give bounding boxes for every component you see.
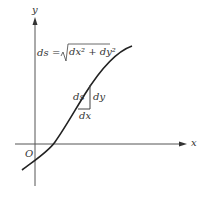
y-axis-arrow-icon [33,17,38,25]
x-axis-label: x [191,138,197,148]
triangle-dy-label: dy [93,92,105,102]
triangle-dx-label: dx [79,111,91,121]
formula-lhs: ds [37,48,49,58]
triangle-ds-label: ds [73,92,85,102]
origin-label: O [25,149,33,159]
arc-length-diagram: y x O ds = dx² + dy² ds dy dx [0,0,206,199]
curve [22,46,132,170]
formula-radicand: dx² + dy² [69,47,116,57]
x-axis-arrow-icon [179,142,187,147]
formula-equals: = [52,48,60,58]
y-axis-label: y [32,5,38,15]
